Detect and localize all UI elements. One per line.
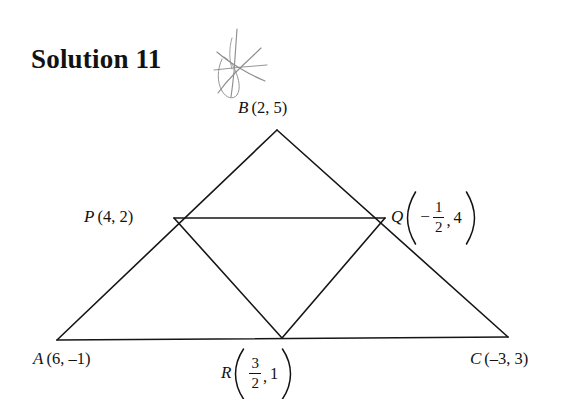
vertex-label-c: C(–3, 3) (470, 350, 528, 368)
midsegment-QR (282, 218, 385, 338)
vertex-label-a-coords: (6, –1) (46, 349, 90, 368)
vertex-label-r: R 3 2 , 1 (221, 348, 292, 399)
r-y-value: 1 (270, 366, 278, 383)
vertex-label-q-coords: − 1 2 , 4 (406, 191, 475, 245)
fraction-bar (249, 373, 261, 374)
r-x-denominator: 2 (249, 376, 261, 392)
left-paren-icon (234, 348, 245, 399)
q-y-value: 4 (454, 210, 462, 227)
q-comma: , (445, 213, 453, 230)
vertex-label-b: B(2, 5) (238, 99, 287, 117)
r-x-fraction: 3 2 (248, 356, 262, 392)
left-paren-icon (406, 191, 417, 245)
vertex-label-b-point: B (238, 98, 251, 117)
vertex-label-a: A(6, –1) (33, 350, 90, 368)
right-paren-icon (465, 191, 476, 245)
vertex-label-b-coords: (2, 5) (251, 98, 287, 117)
vertex-label-r-point: R (221, 363, 234, 382)
r-x-numerator: 3 (249, 356, 261, 372)
solution-figure-page: Solution 11 B(2, 5) P(4, 2) A(6, –1) (0, 0, 582, 399)
vertex-label-a-point: A (33, 349, 46, 368)
triangle-figure (0, 0, 582, 399)
r-comma: , (262, 369, 270, 386)
fraction-bar (433, 217, 445, 218)
vertex-label-p-coords: (4, 2) (97, 207, 133, 226)
side-AB (57, 130, 277, 340)
vertex-label-p-point: P (84, 207, 97, 226)
vertex-label-r-coords: 3 2 , 1 (234, 348, 292, 399)
vertex-label-c-point: C (470, 349, 484, 368)
q-x-fraction: 1 2 (432, 200, 446, 236)
vertex-label-c-coords: (–3, 3) (484, 349, 528, 368)
q-x-sign: − (420, 208, 432, 225)
right-paren-icon (281, 348, 292, 399)
q-x-numerator: 1 (433, 200, 445, 216)
q-x-denominator: 2 (433, 220, 445, 236)
midsegment-RP (174, 218, 282, 338)
vertex-label-q-point: Q (391, 207, 406, 226)
vertex-label-p: P(4, 2) (84, 208, 133, 226)
vertex-label-q: Q − 1 2 , 4 (391, 191, 476, 245)
